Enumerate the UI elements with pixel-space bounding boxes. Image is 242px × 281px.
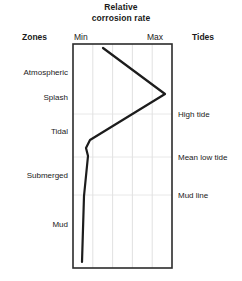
plot-area xyxy=(0,0,242,281)
corrosion-zones-diagram: Relative corrosion rate Zones Min Max Ti… xyxy=(0,0,242,281)
